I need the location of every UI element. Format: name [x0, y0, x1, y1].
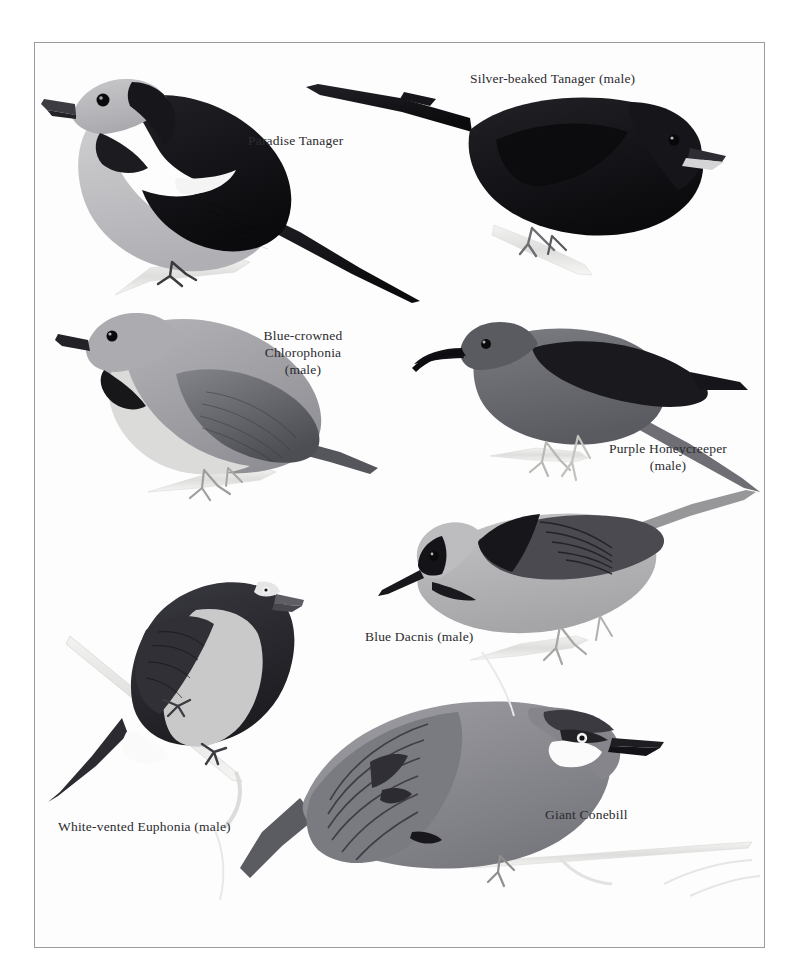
- field-guide-plate: Paradise Tanager Silver-beaked Tanager (…: [0, 0, 800, 978]
- plate-illustrations: [0, 0, 800, 978]
- bird-silver-beaked-tanager: [306, 84, 726, 275]
- bird-white-vented-euphonia: [48, 581, 304, 828]
- bird-blue-crowned-chlorophonia: [55, 313, 378, 500]
- bird-paradise-tanager: [41, 79, 420, 303]
- bird-blue-dacnis: [378, 490, 756, 664]
- bird-giant-conebill: [240, 701, 760, 896]
- bird-purple-honeycreeper: [412, 322, 760, 492]
